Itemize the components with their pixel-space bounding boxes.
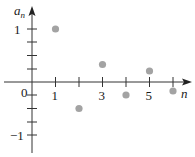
x-axis-label: n: [181, 86, 188, 101]
y-axis-label: an: [14, 3, 26, 20]
point-n2: [75, 105, 82, 112]
x-tick-label-3: 3: [99, 88, 106, 103]
point-n6: [169, 87, 176, 94]
y-tick-label-1: 1: [14, 22, 21, 37]
point-n3: [99, 61, 106, 68]
origin-label: 0: [21, 85, 28, 100]
point-n5: [146, 67, 153, 74]
point-n4: [122, 91, 129, 98]
sequence-plot: an 1 −1 0 1 3 5 n: [0, 0, 195, 157]
x-tick-label-1: 1: [52, 88, 59, 103]
data-points: [52, 25, 177, 112]
y-tick-label-neg1: −1: [10, 128, 24, 143]
point-n1: [52, 25, 59, 32]
x-tick-label-5: 5: [146, 88, 153, 103]
